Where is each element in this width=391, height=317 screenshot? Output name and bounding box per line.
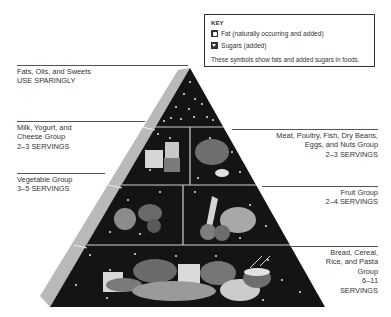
meat-group-name: Meat, Poultry, Fish, Dry Beans, bbox=[276, 131, 378, 140]
fruit-servings: 2–4 SERVINGS bbox=[326, 197, 378, 206]
label-rule-milk bbox=[17, 121, 145, 122]
fat-icon bbox=[211, 30, 218, 37]
milk-label: Milk, Yogurt, and Cheese Group 2–3 SERVI… bbox=[17, 123, 72, 151]
bread-group-name-3: Group bbox=[326, 267, 378, 276]
fruit-label: Fruit Group 2–4 SERVINGS bbox=[326, 188, 378, 207]
sugar-icon bbox=[211, 42, 218, 49]
bread-group-name-2: Rice, and Pasta bbox=[326, 257, 378, 266]
key-item-label: Sugars (added) bbox=[221, 42, 266, 49]
bread-servings: SERVINGS bbox=[326, 286, 378, 295]
bread-servings-count: 6–11 bbox=[326, 276, 378, 285]
vegetable-label: Vegetable Group 3–5 SERVINGS bbox=[17, 175, 72, 194]
label-rule-bread bbox=[290, 246, 378, 247]
fats-servings: USE SPARINGLY bbox=[17, 76, 91, 85]
meat-label: Meat, Poultry, Fish, Dry Beans, Eggs, an… bbox=[276, 131, 378, 159]
label-rule-fruit bbox=[262, 186, 378, 187]
meat-servings: 2–3 SERVINGS bbox=[276, 150, 378, 159]
bread-label: Bread, Cereal, Rice, and Pasta Group 6–1… bbox=[326, 248, 378, 295]
meat-group-name-2: Eggs, and Nuts Group bbox=[276, 140, 378, 149]
bread-group-name: Bread, Cereal, bbox=[326, 248, 378, 257]
legend-key: KEY Fat (naturally occurring and added) … bbox=[204, 14, 375, 67]
key-note: These symbols show fats and added sugars… bbox=[211, 56, 359, 63]
label-rule-meat bbox=[232, 129, 378, 130]
fats-group-name: Fats, Oils, and Sweets bbox=[17, 67, 91, 76]
fats-label: Fats, Oils, and Sweets USE SPARINGLY bbox=[17, 67, 91, 86]
key-item-sugar: Sugars (added) bbox=[211, 42, 266, 49]
label-rule-vegetable bbox=[17, 173, 105, 174]
milk-group-name-2: Cheese Group bbox=[17, 132, 72, 141]
vegetable-group-name: Vegetable Group bbox=[17, 175, 72, 184]
milk-servings: 2–3 SERVINGS bbox=[17, 142, 72, 151]
key-item-fat: Fat (naturally occurring and added) bbox=[211, 30, 324, 37]
label-rule-fats bbox=[17, 65, 188, 66]
key-title: KEY bbox=[211, 19, 224, 26]
key-item-label: Fat (naturally occurring and added) bbox=[221, 30, 324, 37]
vegetable-servings: 3–5 SERVINGS bbox=[17, 184, 72, 193]
milk-group-name: Milk, Yogurt, and bbox=[17, 123, 72, 132]
fruit-group-name: Fruit Group bbox=[326, 188, 378, 197]
